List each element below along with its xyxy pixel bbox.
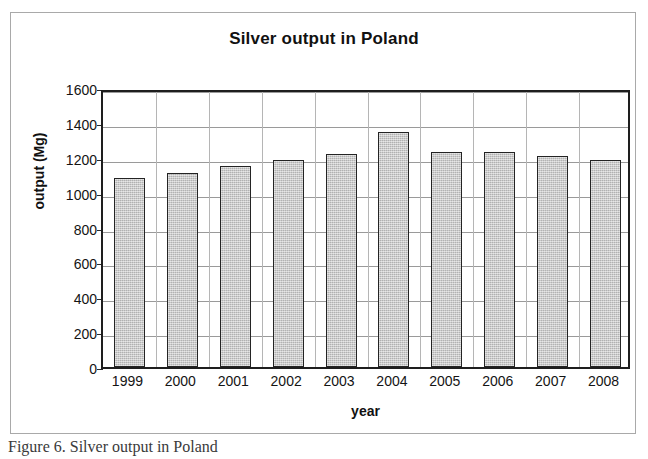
x-tick-label: 2007 (535, 373, 566, 389)
y-tick-label: 1200 (51, 152, 97, 168)
x-tick-label: 1999 (112, 373, 143, 389)
bar (220, 166, 251, 367)
figure-caption: Figure 6. Silver output in Poland (8, 438, 218, 456)
bar (590, 160, 621, 367)
y-tick-label: 0 (51, 361, 97, 377)
y-tick-label: 1000 (51, 187, 97, 203)
bar (273, 160, 304, 368)
x-axis-ticks: 1999200020012002200320042005200620072008 (101, 373, 630, 397)
bar (114, 178, 145, 367)
figure-frame: Silver output in Poland output (Mg) 0200… (10, 12, 636, 434)
x-tick-label: 2002 (271, 373, 302, 389)
y-tick-mark (97, 369, 103, 370)
y-tick-label: 800 (51, 222, 97, 238)
y-tick-label: 1400 (51, 117, 97, 133)
y-tick-label: 200 (51, 326, 97, 342)
bar (326, 154, 357, 367)
y-tick-label: 600 (51, 256, 97, 272)
y-axis-ticks: 02004006008001000120014001600 (45, 90, 97, 369)
bar (167, 173, 198, 367)
bar (537, 156, 568, 367)
bar-series (103, 92, 628, 367)
x-tick-label: 2004 (376, 373, 407, 389)
x-tick-label: 2001 (218, 373, 249, 389)
x-tick-label: 2003 (323, 373, 354, 389)
x-tick-label: 2006 (482, 373, 513, 389)
bar (431, 152, 462, 367)
x-tick-label: 2000 (165, 373, 196, 389)
gridline (103, 371, 628, 372)
y-tick-label: 1600 (51, 82, 97, 98)
y-tick-label: 400 (51, 291, 97, 307)
plot-area (101, 90, 630, 369)
bar (378, 132, 409, 367)
x-tick-label: 2008 (588, 373, 619, 389)
chart-title: Silver output in Poland (11, 29, 637, 49)
x-axis-title: year (101, 403, 630, 419)
bar (484, 152, 515, 367)
x-tick-label: 2005 (429, 373, 460, 389)
